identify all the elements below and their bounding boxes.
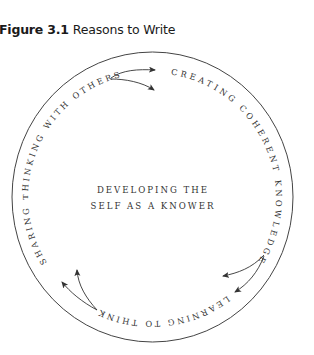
arrow-group-right	[223, 255, 264, 292]
stage-creating-knowledge: CREATING COHERENT KNOWLEDGE	[170, 67, 284, 265]
reasons-cycle-diagram: SHARING THINKING WITH OTHERS CREATING CO…	[0, 0, 314, 355]
arrow-icon	[111, 79, 154, 90]
stage-label-creating: CREATING COHERENT KNOWLEDGE	[170, 67, 284, 265]
center-label-line2: SELF AS A KNOWER	[91, 201, 216, 211]
stage-label-sharing: SHARING THINKING WITH OTHERS	[20, 69, 121, 267]
center-label-line1: DEVELOPING THE	[97, 185, 209, 195]
arrow-icon	[62, 282, 97, 310]
arrow-group-left	[62, 270, 97, 310]
outer-ring	[12, 52, 293, 342]
stage-learning-to-think: LEARNING TO THINK	[96, 294, 232, 329]
stage-label-learning: LEARNING TO THINK	[96, 294, 232, 329]
stage-sharing-thinking: SHARING THINKING WITH OTHERS	[20, 69, 121, 267]
